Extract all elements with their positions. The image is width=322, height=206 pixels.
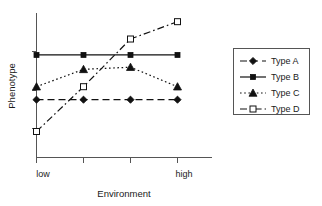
data-point-1-3 — [127, 96, 134, 103]
series-line — [37, 22, 178, 132]
axis-group — [32, 13, 213, 163]
legend-label: Type C — [271, 88, 300, 98]
data-point-4-1 — [34, 128, 40, 134]
chart-figure: low high Environment Phenotype Type ATyp… — [0, 0, 322, 206]
series-type-d — [34, 19, 181, 135]
data-point-1-1 — [33, 96, 40, 103]
legend-label: Type D — [271, 104, 300, 114]
data-point-1-4 — [174, 96, 181, 103]
series-type-b — [34, 52, 180, 57]
data-point-3-4 — [174, 83, 182, 90]
legend-marker-sample — [251, 75, 256, 80]
data-point-2-3 — [128, 52, 133, 57]
data-point-3-2 — [80, 65, 88, 72]
legend-label: Type B — [271, 72, 299, 82]
series-type-c — [33, 63, 182, 90]
legend-marker-sample — [250, 106, 256, 112]
x-tick-label-low: low — [36, 169, 50, 179]
legend: Type AType BType CType D — [234, 49, 310, 115]
chart-canvas: low high Environment Phenotype Type ATyp… — [0, 0, 322, 206]
data-point-4-2 — [81, 84, 87, 90]
series-layer — [33, 19, 182, 135]
data-point-1-2 — [80, 96, 87, 103]
x-tick-label-high: high — [175, 169, 192, 179]
data-point-3-1 — [33, 83, 41, 90]
x-axis-title: Environment — [97, 188, 151, 199]
data-point-4-3 — [128, 36, 134, 42]
legend-label: Type A — [271, 56, 299, 66]
data-point-3-3 — [127, 63, 135, 70]
data-point-2-2 — [81, 52, 86, 57]
y-axis-title: Phenotype — [6, 63, 17, 108]
data-point-2-4 — [175, 52, 180, 57]
data-point-2-1 — [34, 52, 39, 57]
data-point-4-4 — [175, 19, 181, 25]
series-line — [37, 67, 178, 87]
series-type-a — [33, 96, 181, 103]
